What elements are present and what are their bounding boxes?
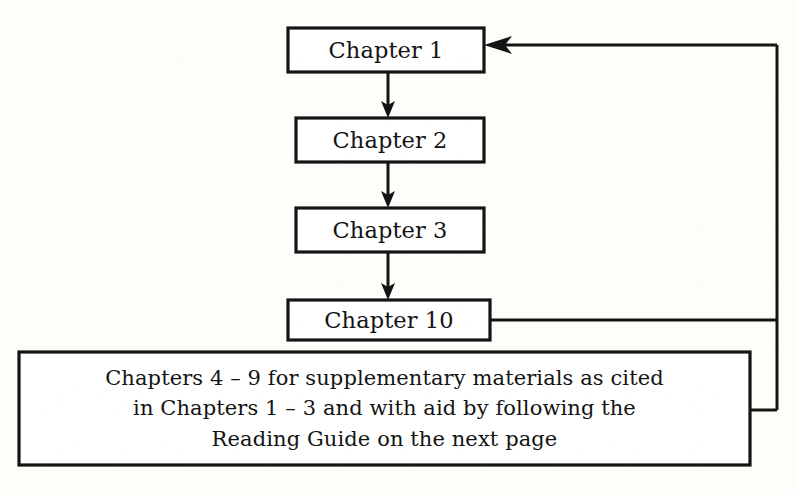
node-label-chapter-10: Chapter 10 [288,300,490,340]
node-label-supplementary-materials: Chapters 4 – 9 for supplementary materia… [19,352,750,465]
node-label-chapter-1: Chapter 1 [288,28,484,72]
arrow-chapter-3-to-chapter-10 [381,252,395,300]
supplementary-text-line-2: in Chapters 1 – 3 and with aid by follow… [133,393,636,423]
arrow-chapter-2-to-chapter-3 [381,162,395,208]
arrow-chapter-1-to-chapter-2 [381,72,395,118]
diagram-canvas: Chapter 1 Chapter 2 Chapter 3 Chapter 10… [0,0,797,493]
supplementary-text-line-3: Reading Guide on the next page [212,424,558,454]
node-label-chapter-2: Chapter 2 [296,118,484,162]
node-label-chapter-3: Chapter 3 [296,208,484,252]
supplementary-text-line-1: Chapters 4 – 9 for supplementary materia… [105,363,664,393]
